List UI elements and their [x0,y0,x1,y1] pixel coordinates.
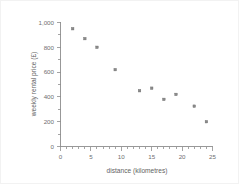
data-point-group [71,27,207,123]
y-tick-label: 0 [51,143,55,150]
x-tick-label: 10 [118,153,125,160]
x-tick-label: 5 [89,153,93,160]
x-tick-label: 20 [179,153,186,160]
y-axis-title: weekly rental price (£) [30,52,38,118]
y-tick-label: 200 [44,118,55,125]
scatter-chart-figure: 02004006008001,000 0510152025 distance (… [0,0,239,184]
data-point [84,37,87,40]
data-point [96,46,99,49]
y-tick-label: 400 [44,93,55,100]
data-point [205,120,208,123]
chart-canvas: 02004006008001,000 0510152025 distance (… [1,1,239,184]
x-tick-label: 15 [148,153,155,160]
data-point [114,68,117,71]
data-point [150,87,153,90]
y-tick-label: 1,000 [39,19,55,26]
x-axis-ticks: 0510152025 [59,147,217,161]
data-point [163,98,166,101]
data-point [138,89,141,92]
y-axis-ticks: 02004006008001,000 [39,19,61,150]
data-point [71,27,74,30]
x-axis-title: distance (kilometres) [107,167,168,175]
y-tick-label: 600 [44,68,55,75]
data-point [193,105,196,108]
data-point [175,93,178,96]
y-tick-label: 800 [44,44,55,51]
x-tick-label: 25 [209,153,216,160]
x-tick-label: 0 [59,153,63,160]
